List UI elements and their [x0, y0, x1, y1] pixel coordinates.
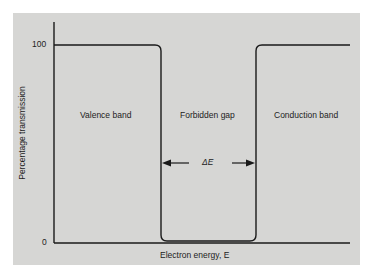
transmission-plot — [0, 0, 371, 279]
arrow-left-icon — [162, 160, 171, 167]
region-label-gap: Forbidden gap — [180, 110, 235, 120]
transmission-curve — [54, 45, 350, 241]
delta-e-label: ΔE — [202, 157, 213, 167]
ytick-100: 100 — [32, 39, 46, 49]
region-label-valence: Valence band — [80, 110, 131, 120]
region-label-conduction: Conduction band — [274, 110, 338, 120]
ytick-0: 0 — [42, 237, 47, 247]
arrow-right-icon — [246, 160, 255, 167]
y-axis-label: Percentage transmission — [17, 83, 27, 183]
x-axis-label: Electron energy, E — [160, 250, 229, 260]
